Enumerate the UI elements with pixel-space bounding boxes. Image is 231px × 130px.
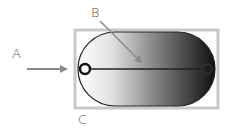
label-c: C: [78, 112, 87, 127]
label-a: A: [12, 46, 21, 61]
diagram-canvas: A B C: [0, 0, 231, 130]
left-ring-marker: [80, 64, 90, 74]
label-b: B: [91, 5, 100, 20]
